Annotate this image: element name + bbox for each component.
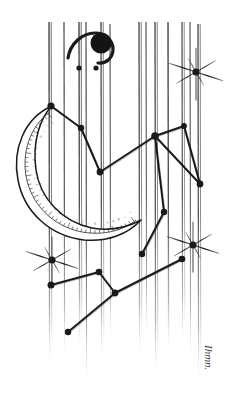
- crescent-glyph: ⋯: [32, 164, 36, 169]
- signature-label: Ihmn.: [203, 344, 215, 370]
- artist-signature: Ihmn.: [203, 344, 215, 370]
- constellation-star-node: [181, 123, 187, 129]
- illustration-canvas: —⸺~≈··•≡∿⋯˜—⸺~≈··•≡∿⋯˜—⸺~≈··•≡∿⋯˜ Ihmn. …: [0, 0, 232, 410]
- rain-line: [64, 22, 65, 352]
- constellation-star-node: [179, 256, 186, 263]
- constellation-star-node: [65, 329, 71, 335]
- ink-drawing: —⸺~≈··•≡∿⋯˜—⸺~≈··•≡∿⋯˜—⸺~≈··•≡∿⋯˜ Ihmn.: [0, 0, 232, 410]
- constellation-star-node: [96, 269, 103, 276]
- constellation-star-node: [197, 181, 204, 188]
- constellation-star-node: [97, 169, 104, 176]
- dot-mark: [93, 65, 98, 70]
- constellation-star-node: [151, 132, 159, 140]
- rain-line: [146, 22, 147, 332]
- constellation-star-node: [78, 125, 84, 131]
- crescent-glyph: ··: [99, 222, 104, 225]
- constellation-star-node: [112, 290, 119, 297]
- constellation-star-node: [161, 209, 167, 215]
- rain-line: [168, 22, 169, 348]
- rain-line: [190, 22, 191, 356]
- rain-line: [86, 22, 87, 380]
- rain-line: [110, 24, 111, 336]
- crescent-glyph: ∿: [33, 158, 36, 163]
- constellation-star-node: [47, 102, 54, 109]
- clef-filled-circle: [91, 33, 112, 54]
- constellation-star-node: [139, 251, 145, 257]
- dot-mark: [76, 65, 81, 70]
